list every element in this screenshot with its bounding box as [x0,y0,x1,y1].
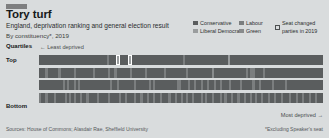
swatch-conservative-icon [193,21,198,26]
chart-card: Tory turf England, deprivation ranking a… [0,0,329,138]
quartile-strip [39,68,323,78]
footnote-note: *Excluding Speaker's seat [265,126,323,132]
quartile-rows [39,55,323,105]
legend-item-conservative: Conservative [193,20,239,26]
legend-item-liberal-democrat: Liberal Democrat [193,28,239,34]
legend-label-labour: Labour [246,20,263,26]
least-deprived-label: ← Least deprived [40,44,84,50]
legend-label-liberal-democrat: Liberal Democrat [200,28,241,34]
quartiles-axis-label: Quartiles [6,43,32,49]
quartile-strip [39,55,323,65]
chart-subtitle: England, deprivation ranking and general… [6,22,169,29]
most-deprived-label: Most deprived → [281,112,323,118]
quartile-strip [39,80,323,90]
legend-item-green: Green [239,28,275,34]
swatch-liberal-democrat-icon [193,29,198,34]
quartile-strip [39,93,323,103]
seat-bar [321,55,323,65]
chart-subtitle-secondary: By constituency*, 2019 [6,32,69,39]
swatch-seat-changed-icon [275,25,280,30]
seat-bar [321,80,323,90]
legend-item-labour: Labour [239,20,275,26]
bottom-quartile-label: Bottom [6,103,27,109]
legend-label-conservative: Conservative [200,20,231,26]
legend-row-1: Conservative Labour Seat changed parties… [193,20,327,28]
legend: Conservative Labour Seat changed parties… [193,20,327,36]
source-note: Sources: House of Commons; Alasdair Rae,… [6,126,148,132]
seat-bar [321,68,323,78]
swatch-green-icon [239,29,244,34]
legend-label-seat-changed: Seat changed parties in 2019 [282,20,325,35]
page-title: Tory turf [6,8,52,20]
legend-label-green: Green [246,28,261,34]
seat-bar [321,93,323,103]
top-quartile-label: Top [6,57,17,63]
legend-item-seat-changed: Seat changed parties in 2019 [275,20,325,35]
swatch-labour-icon [239,21,244,26]
